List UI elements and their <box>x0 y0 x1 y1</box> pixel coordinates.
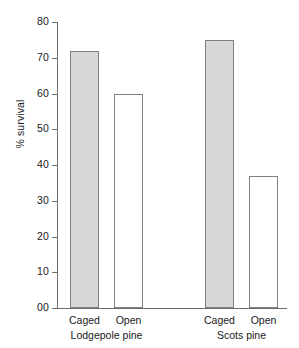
group-label: Lodgepole pine <box>47 329 167 341</box>
y-tick: 00 <box>52 308 57 309</box>
y-tick-label: 10 <box>37 265 49 277</box>
group-label: Scots pine <box>182 329 299 341</box>
y-axis-label: % survival <box>14 84 26 164</box>
plot-area: 807060504030201000 CagedOpenLodgepole pi… <box>57 22 287 309</box>
x-tick-label: Caged <box>64 314 105 326</box>
bar <box>70 51 99 308</box>
y-tick-label: 20 <box>37 230 49 242</box>
y-tick: 50 <box>52 129 57 130</box>
x-tick-label: Caged <box>199 314 240 326</box>
y-tick-label: 60 <box>37 87 49 99</box>
bar <box>205 40 234 308</box>
y-tick-label: 80 <box>37 15 49 27</box>
y-tick-label: 50 <box>37 122 49 134</box>
y-tick: 60 <box>52 94 57 95</box>
bar <box>249 176 278 308</box>
x-tick-label: Open <box>243 314 284 326</box>
y-tick: 80 <box>52 22 57 23</box>
y-tick-label: 00 <box>37 301 49 313</box>
y-tick: 20 <box>52 237 57 238</box>
y-tick-label: 70 <box>37 51 49 63</box>
survival-bar-chart: % survival 807060504030201000 CagedOpenL… <box>0 0 298 348</box>
y-tick-label: 30 <box>37 194 49 206</box>
bar <box>114 94 143 309</box>
y-tick: 10 <box>52 272 57 273</box>
y-axis-line <box>57 22 58 309</box>
y-tick: 40 <box>52 165 57 166</box>
y-tick-label: 40 <box>37 158 49 170</box>
x-tick-label: Open <box>108 314 149 326</box>
y-tick: 70 <box>52 58 57 59</box>
x-axis-line <box>57 308 287 309</box>
y-tick: 30 <box>52 201 57 202</box>
